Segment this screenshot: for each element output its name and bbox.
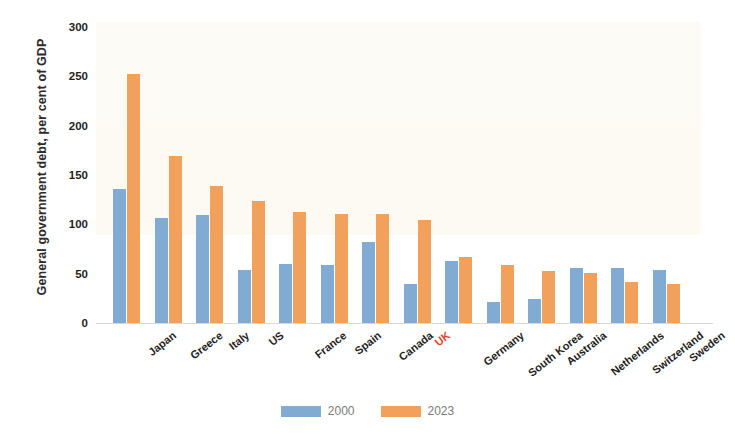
y-tick-200: 200	[44, 120, 88, 132]
bar-greece-2000[interactable]	[155, 218, 168, 323]
y-tick-300: 300	[44, 21, 88, 33]
bar-germany-2023[interactable]	[459, 257, 472, 323]
bar-chart: General government debt, per cent of GDP…	[0, 0, 735, 447]
x-label-spain: Spain	[353, 329, 384, 357]
x-label-germany: Germany	[481, 329, 526, 368]
bar-canada-2023[interactable]	[376, 214, 389, 323]
bar-spain-2023[interactable]	[335, 214, 348, 323]
x-axis-category-labels: JapanGreeceItalyUSFranceSpainCanadaUKGer…	[96, 323, 713, 413]
bar-sweden-2000[interactable]	[653, 270, 666, 323]
bar-us-2000[interactable]	[238, 270, 251, 323]
bar-japan-2023[interactable]	[127, 74, 140, 323]
x-label-canada: Canada	[396, 329, 435, 363]
bar-spain-2000[interactable]	[321, 265, 334, 323]
bar-germany-2000[interactable]	[445, 261, 458, 323]
legend-label-2000: 2000	[328, 404, 355, 418]
bar-uk-2000[interactable]	[404, 284, 417, 323]
bar-australia-2000[interactable]	[528, 299, 541, 323]
x-label-japan: Japan	[145, 329, 177, 358]
bar-canada-2000[interactable]	[362, 242, 375, 323]
bar-italy-2023[interactable]	[210, 186, 223, 323]
legend-label-2023: 2023	[428, 404, 455, 418]
x-label-greece: Greece	[188, 329, 225, 361]
bar-france-2023[interactable]	[293, 212, 306, 323]
bar-france-2000[interactable]	[279, 264, 292, 323]
orange-swatch-icon	[381, 406, 421, 417]
bar-south-korea-2023[interactable]	[501, 265, 514, 323]
bar-japan-2000[interactable]	[113, 189, 126, 323]
x-label-uk: UK	[433, 329, 453, 348]
x-label-italy: Italy	[226, 329, 251, 352]
bar-netherlands-2023[interactable]	[584, 273, 597, 323]
y-tick-250: 250	[44, 70, 88, 82]
bar-sweden-2023[interactable]	[667, 284, 680, 323]
blue-swatch-icon	[281, 406, 321, 417]
bar-italy-2000[interactable]	[196, 215, 209, 323]
legend-item-2023[interactable]: 2023	[381, 404, 455, 418]
y-tick-150: 150	[44, 169, 88, 181]
x-label-france: France	[312, 329, 348, 361]
bar-australia-2023[interactable]	[542, 271, 555, 323]
y-tick-100: 100	[44, 218, 88, 230]
chart-legend: 2000 2023	[0, 404, 735, 418]
bar-us-2023[interactable]	[252, 201, 265, 323]
bar-uk-2023[interactable]	[418, 220, 431, 323]
y-tick-50: 50	[44, 268, 88, 280]
bar-switzerland-2023[interactable]	[625, 282, 638, 323]
bar-south-korea-2000[interactable]	[487, 302, 500, 323]
x-label-us: US	[266, 329, 285, 348]
y-tick-0: 0	[44, 317, 88, 329]
bar-greece-2023[interactable]	[169, 156, 182, 323]
bar-switzerland-2000[interactable]	[611, 268, 624, 323]
bar-netherlands-2000[interactable]	[570, 268, 583, 323]
legend-item-2000[interactable]: 2000	[281, 404, 355, 418]
y-axis-tick-labels: 300250200150100500	[44, 0, 88, 447]
